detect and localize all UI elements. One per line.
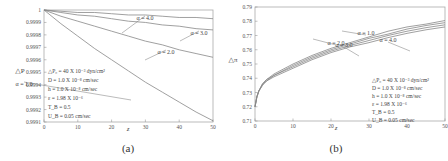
y-tick-label: 0.9993 <box>26 94 41 100</box>
x-tick-label: 0 <box>254 123 257 129</box>
x-tick-label: 50 <box>210 124 216 130</box>
series-line <box>44 10 213 30</box>
series-label: α = 1.0 <box>357 30 374 36</box>
figure: 010203040500.99910.99920.99930.99940.999… <box>0 0 448 161</box>
parameter-annotation: T_B = 0.5 <box>48 104 71 110</box>
y-tick-label: 0.73 <box>242 90 252 96</box>
figure-caption: (b) <box>330 142 343 155</box>
series-line <box>44 10 213 19</box>
parameter-annotation: ε = 1.98 X 10⁻⁶ <box>48 95 83 101</box>
x-tick-label: 40 <box>176 124 182 130</box>
parameter-annotation: D = 1.0 X 10⁻⁸ cm/sec <box>48 77 99 83</box>
series-label: α = 1.0 <box>15 81 32 87</box>
y-tick-label: 0.9997 <box>26 44 41 50</box>
y-tick-label: 0.77 <box>242 33 252 39</box>
y-tick-label: 0.75 <box>242 61 252 67</box>
x-tick-label: 10 <box>290 123 296 129</box>
y-tick-label: 0.9996 <box>26 57 41 63</box>
parameter-annotation: U_B = 0.05 cm/sec <box>48 113 91 119</box>
x-tick-label: 50 <box>442 123 448 129</box>
y-tick-label: 0.9998 <box>26 32 41 38</box>
y-axis-label: △P <box>15 67 24 75</box>
series-label: α = 4.0 <box>136 15 153 21</box>
x-tick-label: 0 <box>43 124 46 130</box>
parameter-annotation: U_B = 0.05 cm/sec <box>372 117 415 123</box>
x-axis-label: z <box>334 124 338 132</box>
parameter-annotation: D = 1.0 X 10⁻⁸ cm/sec <box>372 85 423 91</box>
series-label: α = 3.0 <box>190 30 207 36</box>
parameter-annotation: h = 1.0 X 10⁻⁸ cm/sec <box>372 93 422 99</box>
y-tick-label: 0.72 <box>242 104 252 110</box>
y-axis-label: △π <box>229 56 238 64</box>
x-axis-label: z <box>126 125 130 133</box>
parameter-annotation: h = 1.0 X 10⁻⁸ cm/sec <box>48 86 98 92</box>
parameter-annotation: T_B = 0.5 <box>372 109 395 115</box>
y-tick-label: 0.9999 <box>26 19 41 25</box>
parameter-annotation: △P₀ = 40 X 10⁻³ dyn/cm² <box>48 68 105 74</box>
parameter-annotation: △P₀ = 40 X 10⁻³ dyn/cm² <box>372 77 429 83</box>
x-tick-label: 30 <box>366 123 372 129</box>
parameter-annotation: ε = 1.98 X 10⁻⁶ <box>372 101 407 107</box>
chart-b: 010203040500.710.720.730.740.750.760.770… <box>229 4 448 155</box>
x-tick-label: 30 <box>143 124 149 130</box>
x-tick-label: 40 <box>404 123 410 129</box>
y-tick-label: 0.9995 <box>26 69 41 75</box>
y-tick-label: 0.78 <box>242 18 252 24</box>
y-tick-label: 0.9992 <box>26 107 41 113</box>
x-tick-label: 10 <box>75 124 81 130</box>
figure-caption: (a) <box>122 142 135 155</box>
y-tick-label: 0.71 <box>242 118 252 124</box>
x-tick-label: 20 <box>328 123 334 129</box>
x-tick-label: 20 <box>109 124 115 130</box>
y-tick-label: 0.9991 <box>26 119 41 125</box>
chart-a: 010203040500.99910.99920.99930.99940.999… <box>15 7 216 155</box>
plot-frame <box>255 7 445 121</box>
y-tick-label: 0.76 <box>242 47 252 53</box>
leader-line <box>388 42 410 51</box>
series-label: α = 2.0 <box>157 49 174 55</box>
y-tick-label: 0.74 <box>242 75 252 81</box>
y-tick-label: 1 <box>38 7 41 13</box>
series-label: α = 4.0 <box>379 37 396 43</box>
y-tick-label: 0.79 <box>242 4 252 10</box>
